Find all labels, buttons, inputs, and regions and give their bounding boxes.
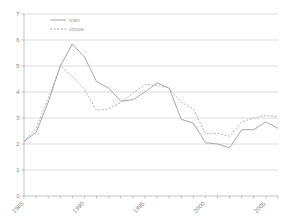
x-tick-label: 1995 bbox=[132, 200, 146, 214]
x-tick-label: 2005 bbox=[253, 200, 267, 214]
gridlines bbox=[24, 14, 278, 170]
chart-axes bbox=[24, 14, 278, 196]
y-axis-ticks bbox=[22, 14, 25, 196]
y-tick-label: 1 bbox=[16, 167, 20, 173]
x-tick-label: 1990 bbox=[71, 200, 85, 214]
legend-label-man: man bbox=[69, 17, 80, 23]
y-axis-tick-labels: 01234567 bbox=[16, 11, 20, 199]
x-axis-tick-labels: 19851990199520002005 bbox=[11, 200, 267, 214]
series-line-vrouw bbox=[24, 66, 278, 141]
y-tick-label: 5 bbox=[16, 63, 20, 69]
y-tick-label: 7 bbox=[16, 11, 20, 17]
legend-label-vrouw: vrouw bbox=[69, 26, 84, 32]
x-tick-label: 1985 bbox=[11, 200, 25, 214]
series-line-man bbox=[24, 44, 278, 148]
y-tick-label: 2 bbox=[16, 141, 20, 147]
x-axis-ticks bbox=[24, 196, 278, 199]
chart-canvas: 01234567 19851990199520002005 manvrouw bbox=[0, 0, 290, 221]
y-tick-label: 3 bbox=[16, 115, 20, 121]
y-tick-label: 0 bbox=[16, 193, 20, 199]
chart-legend: manvrouw bbox=[50, 17, 84, 32]
y-tick-label: 4 bbox=[16, 89, 20, 95]
y-tick-label: 6 bbox=[16, 37, 20, 43]
line-chart: 01234567 19851990199520002005 manvrouw bbox=[0, 0, 290, 221]
data-series-group bbox=[24, 44, 278, 148]
x-tick-label: 2000 bbox=[192, 200, 206, 214]
